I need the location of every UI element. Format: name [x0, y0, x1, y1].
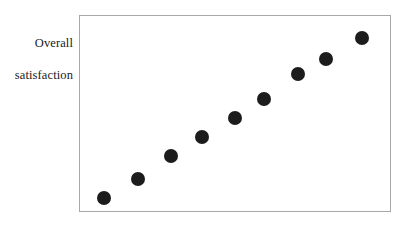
data-points-layer — [80, 16, 390, 211]
data-point — [164, 149, 178, 163]
plot-area — [79, 15, 391, 212]
scatterplot-figure: Overall satisfaction — [0, 0, 400, 228]
y-axis-label-line-2: satisfaction — [0, 67, 73, 83]
y-axis-label-line-1: Overall — [0, 35, 73, 51]
data-point — [291, 67, 305, 81]
data-point — [257, 92, 271, 106]
data-point — [355, 31, 369, 45]
y-axis-label: Overall satisfaction — [0, 19, 73, 99]
data-point — [319, 52, 333, 66]
data-point — [131, 172, 145, 186]
data-point — [228, 111, 242, 125]
data-point — [195, 130, 209, 144]
data-point — [97, 191, 111, 205]
